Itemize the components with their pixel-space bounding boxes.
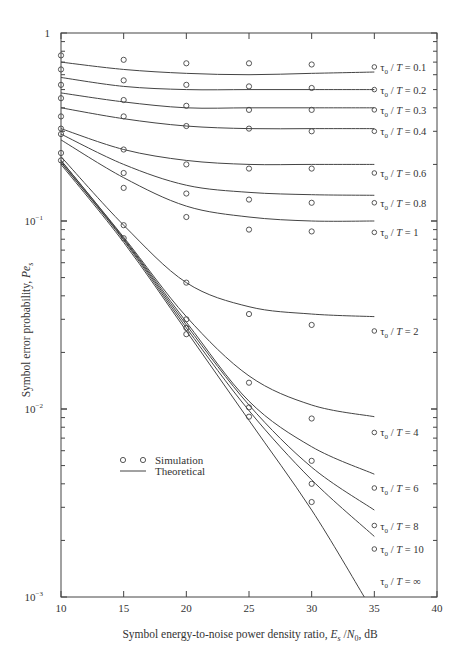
- curve-label: τ0 / T = 0.8: [380, 198, 426, 212]
- simulation-point: [309, 416, 314, 421]
- y-tick-0.01: 10−2: [25, 402, 44, 415]
- theoretical-curve: [61, 108, 374, 129]
- simulation-point: [309, 229, 314, 234]
- simulation-point: [246, 311, 251, 316]
- curve-label: τ0 / T = 4: [380, 427, 419, 441]
- theoretical-curve: [61, 160, 374, 416]
- y-tick-0.1: 10−1: [25, 214, 44, 227]
- simulation-point: [246, 380, 251, 385]
- simulation-point: [246, 84, 251, 89]
- theoretical-curve: [61, 157, 374, 317]
- symbol-error-chart: 10152025303540 τ0 / T = 0.1τ0 / T = 0.2τ…: [0, 0, 463, 650]
- simulation-point: [309, 481, 314, 486]
- simulation-point: [372, 430, 377, 435]
- simulation-point: [184, 61, 189, 66]
- legend: Simulation Theoretical: [120, 454, 205, 477]
- simulation-point: [372, 486, 377, 491]
- curve-label: τ0 / T = 8: [380, 521, 418, 535]
- y-axis-label: Symbol error probability, Pes: [20, 263, 35, 398]
- simulation-point: [309, 322, 314, 327]
- curve-label: τ0 / T = 0.6: [380, 168, 426, 182]
- theoretical-curve: [61, 162, 374, 510]
- curve-label: τ0 / T = 10: [380, 544, 423, 558]
- x-tick-label: 35: [369, 602, 381, 614]
- simulation-point: [309, 499, 314, 504]
- legend-sim-marker-1: [120, 457, 125, 462]
- legend-sim-marker-2: [140, 457, 145, 462]
- simulation-point: [372, 129, 377, 134]
- simulation-point: [372, 171, 377, 176]
- simulation-point: [372, 65, 377, 70]
- simulation-point: [309, 200, 314, 205]
- simulation-point: [309, 166, 314, 171]
- theoretical-curves: [61, 62, 374, 597]
- curve-label: τ0 / T = 0.2: [380, 85, 426, 99]
- simulation-points: [58, 53, 314, 505]
- simulation-point: [309, 458, 314, 463]
- simulation-point: [372, 547, 377, 552]
- simulation-point: [246, 227, 251, 232]
- y-tick-0.001: 10−3: [25, 590, 44, 603]
- theoretical-curve: [61, 77, 374, 89]
- simulation-point: [246, 197, 251, 202]
- theoretical-curve: [61, 129, 374, 165]
- simulation-point: [121, 78, 126, 83]
- curve-label: τ0 / T = 0.3: [380, 105, 426, 119]
- curve-label: τ0 / T = 6: [380, 483, 418, 497]
- curve-label: τ0 / T = ∞: [380, 576, 420, 590]
- simulation-point: [309, 62, 314, 67]
- x-tick-label: 25: [244, 602, 256, 614]
- simulation-point: [246, 61, 251, 66]
- simulation-point: [372, 230, 377, 235]
- simulation-point: [121, 57, 126, 62]
- simulation-point: [246, 166, 251, 171]
- curve-label: τ0 / T = 2: [380, 326, 418, 340]
- theoretical-curve: [61, 164, 364, 597]
- simulation-point: [246, 414, 251, 419]
- simulation-point: [184, 214, 189, 219]
- theoretical-curve: [61, 160, 374, 474]
- x-tick-label: 10: [56, 602, 68, 614]
- x-tick-label: 30: [306, 602, 318, 614]
- x-tick-label: 20: [181, 602, 193, 614]
- x-tick-label: 40: [432, 602, 444, 614]
- curve-label: τ0 / T = 0.4: [380, 126, 427, 140]
- y-tick-1: 1: [45, 27, 51, 39]
- theoretical-curve: [61, 62, 374, 75]
- x-tick-label: 15: [118, 602, 130, 614]
- theoretical-curve: [61, 93, 374, 108]
- simulation-point: [121, 170, 126, 175]
- simulation-point: [121, 185, 126, 190]
- simulation-point: [184, 162, 189, 167]
- x-axis-label: Symbol energy-to-noise power density rat…: [122, 628, 377, 643]
- simulation-point: [372, 200, 377, 205]
- legend-theoretical-label: Theoretical: [155, 465, 205, 477]
- curve-label: τ0 / T = 1: [380, 227, 418, 241]
- simulation-point: [372, 523, 377, 528]
- simulation-point: [372, 108, 377, 113]
- curve-labels: τ0 / T = 0.1τ0 / T = 0.2τ0 / T = 0.3τ0 /…: [372, 62, 427, 590]
- curve-label: τ0 / T = 0.1: [380, 62, 426, 76]
- simulation-point: [184, 82, 189, 87]
- simulation-point: [309, 129, 314, 134]
- simulation-point: [184, 191, 189, 196]
- simulation-point: [372, 329, 377, 334]
